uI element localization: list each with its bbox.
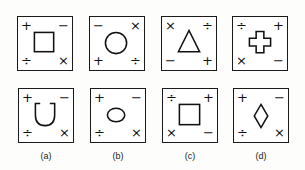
square-icon (163, 89, 217, 142)
u-shape-icon (19, 89, 73, 142)
problem-figure-4: ÷ + × − (232, 16, 288, 71)
answer-figure-d[interactable]: + − ÷ × (233, 88, 289, 143)
circle-icon (90, 17, 144, 70)
answer-figure-c[interactable]: ÷ + × − (162, 88, 218, 143)
answer-figure-b[interactable]: + − ÷ × (90, 88, 146, 143)
answer-figure-a[interactable]: + − ÷ × (18, 88, 74, 143)
ellipse-icon (91, 89, 145, 142)
square-icon (18, 17, 72, 70)
answer-label-a: (a) (18, 151, 74, 161)
problem-figure-1: + − ÷ × (17, 16, 73, 71)
triangle-icon (162, 17, 216, 70)
answer-label-d: (d) (233, 151, 289, 161)
answer-label-c: (c) (162, 151, 218, 161)
diamond-icon (234, 89, 288, 142)
problem-figure-3: × ÷ − + (161, 16, 217, 71)
problem-figure-2: − × + ÷ (89, 16, 145, 71)
cross-icon (233, 17, 287, 70)
answer-label-b: (b) (90, 151, 146, 161)
